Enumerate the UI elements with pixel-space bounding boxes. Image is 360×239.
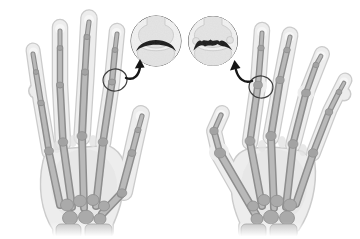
illustration-stage <box>0 0 360 239</box>
healthy-joint-inset <box>131 14 181 70</box>
wrist-fade-overlay <box>0 222 360 239</box>
left-hand-xray <box>28 15 146 239</box>
right-callout-arrow-icon <box>230 60 252 82</box>
damaged-joint-inset <box>188 14 238 70</box>
hands-xray-illustration <box>0 0 360 239</box>
healthy-inset-texture <box>131 16 181 66</box>
